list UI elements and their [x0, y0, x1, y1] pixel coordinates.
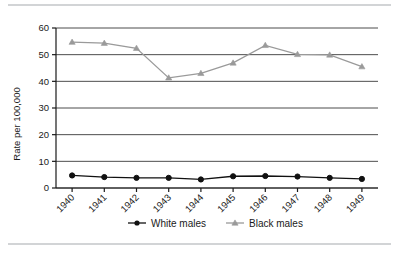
series-white-males — [70, 173, 365, 182]
legend-label: Black males — [249, 218, 303, 229]
y-tick-labels: 0102030405060 — [38, 22, 49, 193]
figure-container: 0102030405060 19401941194219431944194519… — [0, 0, 399, 255]
y-tick-label: 40 — [38, 76, 49, 87]
series-line — [72, 42, 362, 78]
data-point-marker — [134, 175, 139, 180]
legend-item[interactable]: White males — [128, 218, 206, 229]
top-divider-rule — [8, 4, 391, 6]
data-point-marker — [262, 42, 268, 47]
y-tick-label: 20 — [38, 129, 49, 140]
data-point-marker — [359, 176, 364, 181]
line-chart: 0102030405060 19401941194219431944194519… — [0, 14, 399, 234]
data-point-marker — [327, 175, 332, 180]
chart-plot-area: 0102030405060 19401941194219431944194519… — [0, 14, 399, 234]
x-tick-label: 1943 — [150, 192, 173, 215]
data-point-marker — [198, 177, 203, 182]
data-point-marker — [295, 174, 300, 179]
data-point-marker — [102, 174, 107, 179]
x-tick-labels: 1940194119421943194419451946194719481949 — [54, 192, 367, 215]
x-tick-label: 1947 — [279, 192, 302, 215]
data-point-marker — [263, 173, 268, 178]
y-axis-title: Rate per 100,000 — [11, 87, 22, 160]
legend-label: White males — [151, 218, 206, 229]
data-point-marker — [166, 175, 171, 180]
bottom-divider-rule — [8, 243, 391, 245]
y-tick-label: 0 — [44, 182, 49, 193]
x-tick-label: 1942 — [118, 192, 141, 215]
series-line — [72, 175, 362, 179]
x-tick-label: 1946 — [247, 192, 270, 215]
x-tick-label: 1948 — [311, 192, 334, 215]
x-tick-label: 1941 — [86, 192, 109, 215]
chart-legend: White malesBlack males — [128, 218, 303, 229]
x-tick-label: 1945 — [215, 192, 238, 215]
data-point-marker — [70, 173, 75, 178]
y-tick-label: 30 — [38, 102, 49, 113]
x-tick-label: 1944 — [183, 192, 206, 215]
data-point-marker — [231, 174, 236, 179]
x-tick-marks — [72, 188, 362, 192]
legend-item[interactable]: Black males — [226, 218, 303, 229]
y-tick-label: 60 — [38, 22, 49, 33]
x-tick-label: 1940 — [54, 192, 77, 215]
y-tick-label: 50 — [38, 49, 49, 60]
y-tick-label: 10 — [38, 156, 49, 167]
x-tick-label: 1949 — [344, 192, 367, 215]
series-black-males — [69, 39, 365, 80]
legend-marker-circle-icon — [134, 220, 139, 225]
